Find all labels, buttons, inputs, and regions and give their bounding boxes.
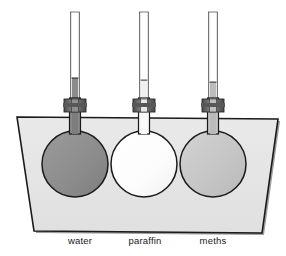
meniscus-paraffin <box>141 79 148 81</box>
thermal-expansion-diagram: water paraffin meths <box>0 0 286 256</box>
flask-bulb-meths <box>180 131 246 197</box>
flask-bulb-water <box>42 131 108 197</box>
meniscus-water <box>72 77 79 79</box>
stopper-flange-paraffin <box>132 103 156 107</box>
diagram-canvas: water paraffin meths <box>0 0 286 256</box>
flask-label-meths: meths <box>200 235 227 246</box>
meniscus-meths <box>210 81 217 83</box>
flask-label-water: water <box>67 235 92 246</box>
flask-bulb-paraffin <box>111 131 177 197</box>
stopper-flange-meths <box>201 103 225 107</box>
flask-label-paraffin: paraffin <box>128 235 161 246</box>
stopper-flange-water <box>63 103 87 107</box>
